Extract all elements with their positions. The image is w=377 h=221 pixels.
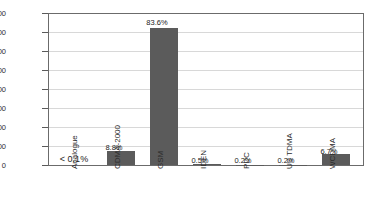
- bar-chart: Subscribers, (millions) 4000 3500 3000 2…: [0, 0, 377, 221]
- x-label-iden: IDEN: [200, 150, 208, 169]
- x-label-wcdma: WCDMA: [329, 138, 337, 169]
- x-label-ustdma: US TDMA: [286, 133, 294, 169]
- x-label-gsm: GSM: [157, 151, 165, 169]
- x-label-pdc: PDC: [243, 152, 251, 169]
- x-label-analogue: Analogue: [71, 135, 79, 169]
- x-axis-labels: Analogue CDMA-2000 GSM IDEN PDC US TDMA …: [0, 0, 377, 221]
- x-label-cdma2000: CDMA-2000: [114, 125, 122, 169]
